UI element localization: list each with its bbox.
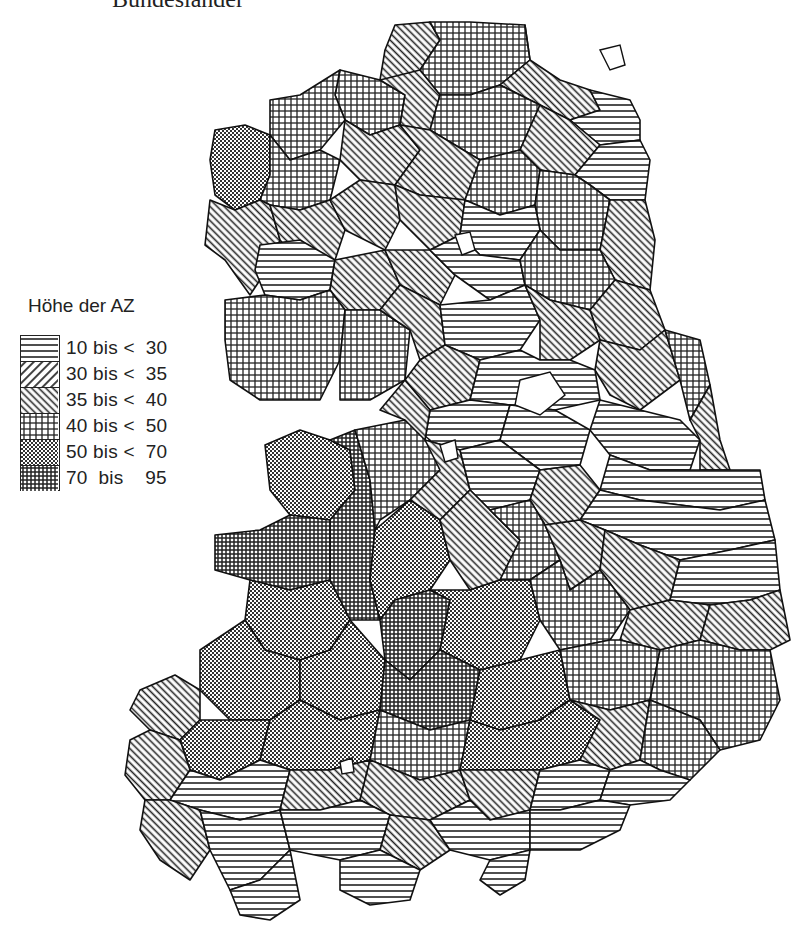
legend-label: 70 bis 95 (66, 467, 167, 489)
map-region (225, 290, 345, 400)
legend-item: 10 bis < 30 (20, 335, 167, 361)
legend-title: Höhe der AZ (28, 295, 167, 317)
legend-item: 30 bis < 35 (20, 361, 167, 387)
map-legend: Höhe der AZ 10 bis < 30 30 bis < 35 35 b… (20, 295, 167, 491)
horizontal-lines-swatch-icon (20, 335, 60, 361)
map-region (560, 640, 660, 710)
checker-swatch-icon (20, 439, 60, 465)
map-region (140, 800, 210, 880)
diagonal-up-swatch-icon (20, 387, 60, 413)
dense-grid-swatch-icon (20, 465, 60, 491)
legend-label: 50 bis < 70 (66, 441, 167, 463)
legend-item: 70 bis 95 (20, 465, 167, 491)
map-region (215, 515, 330, 590)
legend-label: 40 bis < 50 (66, 415, 167, 437)
legend-item: 50 bis < 70 (20, 439, 167, 465)
legend-item: 40 bis < 50 (20, 413, 167, 439)
legend-label: 35 bis < 40 (66, 389, 167, 411)
diagonal-down-swatch-icon (20, 361, 60, 387)
legend-item: 35 bis < 40 (20, 387, 167, 413)
legend-label: 30 bis < 35 (66, 363, 167, 385)
map-region (270, 70, 345, 160)
map-region (590, 400, 700, 470)
legend-label: 10 bis < 30 (66, 337, 167, 359)
city-hole (600, 45, 625, 70)
grid-swatch-icon (20, 413, 60, 439)
